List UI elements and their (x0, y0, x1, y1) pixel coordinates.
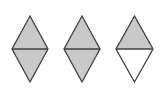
top-triangle (116, 16, 153, 49)
bottom-triangle (64, 49, 100, 82)
rhombus-diagram (0, 0, 162, 95)
rhombus-3 (116, 16, 153, 82)
rhombus-1 (12, 16, 48, 82)
bottom-triangle (116, 49, 153, 82)
rhombus-2 (64, 16, 100, 82)
top-triangle (64, 16, 100, 49)
bottom-triangle (12, 49, 48, 82)
top-triangle (12, 16, 48, 49)
